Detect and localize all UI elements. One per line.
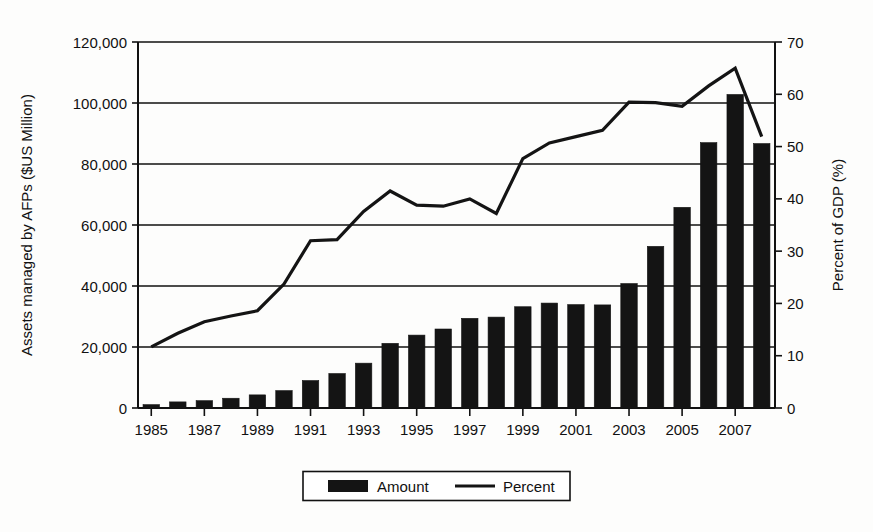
bar-1989 <box>249 395 265 408</box>
y-tick-label-right: 40 <box>787 190 804 207</box>
x-tick-label-1993: 1993 <box>347 421 380 438</box>
y-tick-label-left: 40,000 <box>81 278 127 295</box>
y-tick-label-left: 20,000 <box>81 339 127 356</box>
combo-chart: 020,00040,00060,00080,000100,000120,0000… <box>0 0 873 532</box>
x-tick-label-2005: 2005 <box>665 421 698 438</box>
y-tick-label-left: 80,000 <box>81 156 127 173</box>
x-tick-label-2001: 2001 <box>559 421 592 438</box>
y-tick-label-right: 60 <box>787 86 804 103</box>
legend-label-amount: Amount <box>377 478 430 495</box>
bar-2000 <box>541 303 557 408</box>
bar-2001 <box>568 305 584 408</box>
bar-2003 <box>621 284 637 408</box>
y-tick-label-left: 100,000 <box>73 95 127 112</box>
legend-marker-amount <box>328 480 368 492</box>
x-tick-label-2007: 2007 <box>719 421 752 438</box>
x-tick-label-2003: 2003 <box>612 421 645 438</box>
y-tick-label-left: 120,000 <box>73 34 127 51</box>
bar-1991 <box>302 381 318 408</box>
bar-1993 <box>355 363 371 408</box>
bar-1998 <box>488 317 504 408</box>
bar-1999 <box>515 307 531 408</box>
x-tick-label-1999: 1999 <box>506 421 539 438</box>
y-tick-label-right: 20 <box>787 295 804 312</box>
chart-figure: 020,00040,00060,00080,000100,000120,0000… <box>0 0 873 532</box>
y-axis-left-title: Assets managed by AFPs ($US Million) <box>18 94 35 356</box>
x-tick-label-1995: 1995 <box>400 421 433 438</box>
y-tick-label-left: 0 <box>119 400 127 417</box>
x-tick-label-1997: 1997 <box>453 421 486 438</box>
y-tick-label-right: 50 <box>787 138 804 155</box>
bar-1995 <box>408 335 424 408</box>
bar-2004 <box>647 246 663 408</box>
bar-2005 <box>674 207 690 408</box>
bar-1990 <box>276 391 292 408</box>
bar-1996 <box>435 329 451 408</box>
y-axis-right-title: Percent of GDP (%) <box>829 159 846 291</box>
bar-1992 <box>329 374 345 408</box>
bar-1994 <box>382 343 398 408</box>
y-axis-left: 020,00040,00060,00080,000100,000120,000 <box>73 34 138 417</box>
x-tick-label-1991: 1991 <box>294 421 327 438</box>
y-axis-right: 010203040506070 <box>775 34 804 417</box>
bar-2006 <box>700 143 716 408</box>
y-tick-label-right: 30 <box>787 243 804 260</box>
bar-1997 <box>462 318 478 408</box>
bar-1985 <box>143 405 159 408</box>
bar-1987 <box>196 401 212 408</box>
y-tick-label-right: 70 <box>787 34 804 51</box>
line-series-percent <box>151 68 761 347</box>
x-tick-label-1987: 1987 <box>188 421 221 438</box>
bar-2002 <box>594 305 610 408</box>
x-axis: 1985198719891991199319951997199920012003… <box>135 408 752 438</box>
y-tick-label-left: 60,000 <box>81 217 127 234</box>
y-tick-label-right: 0 <box>787 400 795 417</box>
y-tick-label-right: 10 <box>787 347 804 364</box>
legend-label-percent: Percent <box>503 478 556 495</box>
bar-1986 <box>170 402 186 408</box>
bar-2007 <box>727 94 743 408</box>
bar-2008 <box>754 144 770 408</box>
x-tick-label-1985: 1985 <box>135 421 168 438</box>
chart-legend: AmountPercent <box>303 472 570 501</box>
bar-series-amount <box>143 94 770 408</box>
bar-1988 <box>223 398 239 408</box>
x-tick-label-1989: 1989 <box>241 421 274 438</box>
